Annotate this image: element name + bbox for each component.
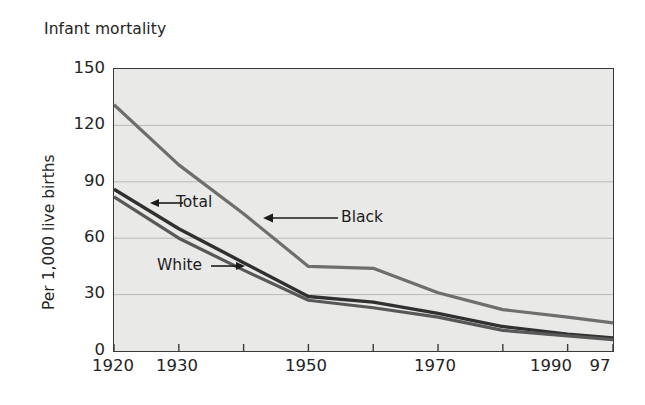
x-tick-1990: 1990	[530, 356, 572, 375]
white-annotation-arrow-icon	[210, 258, 246, 274]
x-axis-tick-labels: 1920 1930 1950 1970 1990 97	[0, 0, 645, 405]
x-tick-1920: 1920	[92, 356, 134, 375]
series-label-total: Total	[176, 193, 212, 211]
black-annotation-arrow-icon	[263, 210, 339, 226]
series-label-black: Black	[341, 208, 383, 226]
x-tick-97: 97	[590, 356, 611, 375]
x-tick-1950: 1950	[285, 356, 327, 375]
infant-mortality-chart-figure: Infant mortality Per 1,000 live births 1…	[0, 0, 645, 405]
x-tick-1970: 1970	[414, 356, 456, 375]
x-tick-1930: 1930	[156, 356, 198, 375]
series-label-white: White	[157, 256, 202, 274]
